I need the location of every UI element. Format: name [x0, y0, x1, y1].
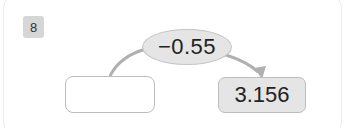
answer-input-box[interactable] — [65, 76, 155, 113]
operation-bubble: −0.55 — [142, 29, 232, 65]
result-box: 3.156 — [218, 77, 306, 113]
operation-label: −0.55 — [158, 34, 216, 60]
result-value: 3.156 — [234, 82, 289, 108]
connector-arc-left — [110, 49, 146, 76]
connector-arc-right — [226, 55, 258, 72]
